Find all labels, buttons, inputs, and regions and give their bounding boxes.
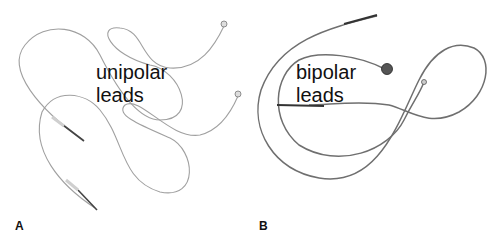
caption-line-1: bipolar [296,61,356,84]
panel-letter-a: A [15,219,24,233]
caption-line-2: leads [96,84,167,107]
unipolar-leads-illustration [0,0,249,241]
unipolar-leads-caption: unipolar leads [96,61,167,107]
panel-letter-b: B [259,219,268,233]
bipolar-leads-illustration [249,0,498,241]
panel-b-bipolar-leads: bipolar leads B [249,0,498,241]
caption-line-2: leads [296,84,356,107]
panel-a-unipolar-leads: unipolar leads A [0,0,249,241]
bipolar-leads-caption: bipolar leads [296,61,356,107]
caption-line-1: unipolar [96,61,167,84]
